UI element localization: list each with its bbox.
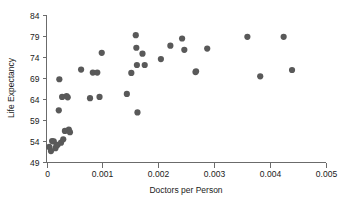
x-tick-label: 0.001 <box>92 169 114 179</box>
y-tick-label: 79 <box>30 32 40 42</box>
x-tick-label: 0.004 <box>260 169 282 179</box>
data-point <box>244 34 250 40</box>
data-point <box>134 109 140 115</box>
y-tick-group <box>43 16 47 163</box>
data-point-group <box>46 32 295 154</box>
data-point <box>94 69 100 75</box>
data-point <box>96 94 102 100</box>
x-tick-group <box>48 163 327 168</box>
y-tick-label: 49 <box>30 158 40 168</box>
data-point <box>158 56 164 62</box>
data-point <box>78 67 84 73</box>
data-point <box>99 50 105 56</box>
y-axis-group: 4954596469747984 <box>30 11 46 168</box>
data-point <box>65 94 71 100</box>
data-point <box>133 32 139 38</box>
data-point <box>142 62 148 68</box>
scatter-chart: 4954596469747984 00.0010.0020.0030.0040.… <box>0 0 344 205</box>
data-point <box>139 51 145 57</box>
data-point <box>134 62 140 68</box>
data-point <box>56 76 62 82</box>
x-tick-label: 0.005 <box>316 169 338 179</box>
x-tick-label: 0.002 <box>148 169 170 179</box>
data-point <box>87 95 93 101</box>
x-tick-label: 0.003 <box>204 169 226 179</box>
data-point <box>128 70 134 76</box>
data-point <box>181 47 187 53</box>
x-tick-label-group: 00.0010.0020.0030.0040.005 <box>45 169 337 179</box>
x-axis-group: 00.0010.0020.0030.0040.005 <box>45 163 337 180</box>
data-point <box>133 45 139 51</box>
data-point <box>204 46 210 52</box>
y-tick-label: 69 <box>30 74 40 84</box>
y-tick-label: 64 <box>30 95 40 105</box>
x-tick-label: 0 <box>45 169 50 179</box>
data-point <box>257 73 263 79</box>
y-tick-label: 54 <box>30 137 40 147</box>
data-point <box>281 34 287 40</box>
x-axis-title: Doctors per Person <box>149 185 222 195</box>
data-point <box>56 107 62 113</box>
data-point <box>124 91 130 97</box>
data-point <box>167 43 173 49</box>
chart-canvas: 4954596469747984 00.0010.0020.0030.0040.… <box>0 0 344 205</box>
data-point <box>67 129 73 135</box>
data-point <box>289 67 295 73</box>
y-axis-title: Life Expectancy <box>6 57 16 118</box>
y-tick-label-group: 4954596469747984 <box>30 11 40 168</box>
data-point <box>193 68 199 74</box>
y-tick-label: 59 <box>30 116 40 126</box>
data-point <box>179 35 185 41</box>
y-tick-label: 74 <box>30 53 40 63</box>
y-tick-label: 84 <box>30 11 40 21</box>
data-point <box>60 136 66 142</box>
